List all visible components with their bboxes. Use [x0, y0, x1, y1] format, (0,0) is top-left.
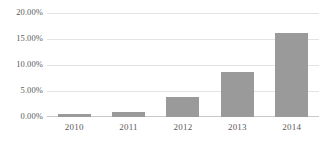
x-axis-tick-label: 2014	[265, 121, 319, 137]
bar-2011[interactable]	[112, 112, 145, 117]
x-axis-tick-label: 2013	[210, 121, 264, 137]
y-axis-tick-label: 5.00%	[0, 86, 43, 95]
bar-slot	[156, 13, 210, 117]
bar-slot	[265, 13, 319, 117]
bar-2012[interactable]	[166, 97, 199, 117]
bar-slot	[101, 13, 155, 117]
plot-area	[47, 13, 319, 117]
y-axis: 20.00% 15.00% 10.00% 5.00% 0.00%	[0, 0, 47, 145]
bar-slot	[47, 13, 101, 117]
bar-chart: 20.00% 15.00% 10.00% 5.00% 0.00%	[0, 0, 326, 145]
bar-slot	[210, 13, 264, 117]
y-axis-tick-label: 15.00%	[0, 34, 43, 43]
x-axis: 2010 2011 2012 2013 2014	[47, 121, 319, 137]
y-axis-tick-label: 10.00%	[0, 60, 43, 69]
y-axis-tick-label: 0.00%	[0, 112, 43, 121]
x-axis-tick-label: 2010	[47, 121, 101, 137]
bar-group	[47, 13, 319, 117]
bar-2014[interactable]	[275, 33, 308, 117]
x-axis-tick-label: 2011	[101, 121, 155, 137]
bar-2010[interactable]	[58, 114, 91, 117]
x-axis-tick-label: 2012	[156, 121, 210, 137]
bar-2013[interactable]	[221, 72, 254, 117]
y-axis-tick-label: 20.00%	[0, 8, 43, 17]
